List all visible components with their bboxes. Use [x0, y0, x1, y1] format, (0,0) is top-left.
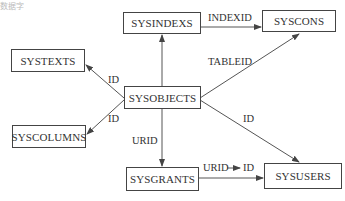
- node-label: SYSUSERS: [275, 170, 330, 182]
- node-systexts: SYSTEXTS: [11, 49, 85, 72]
- node-sysusers: SYSUSERS: [264, 163, 342, 189]
- edge-label-users-id: ID: [243, 113, 254, 124]
- node-sysindexs: SYSINDEXS: [123, 12, 201, 34]
- node-label: SYSCONS: [274, 15, 324, 27]
- edge-label-texts-id: ID: [108, 74, 119, 85]
- edge-label-indexid: INDEXID: [208, 12, 252, 23]
- node-syscons: SYSCONS: [262, 10, 336, 32]
- edge-users-id: [200, 100, 299, 162]
- edge-label-urid: URID: [132, 135, 158, 146]
- node-label: SYSINDEXS: [131, 17, 192, 29]
- edge-label-grants-id: ID: [243, 162, 254, 173]
- edge-label-tableid: TABLEID: [208, 56, 252, 67]
- node-label: SYSGRANTS: [130, 173, 195, 185]
- node-label: SYSTEXTS: [20, 55, 75, 67]
- node-sysgrants: SYSGRANTS: [126, 167, 199, 191]
- edge-label-grants-urid: URID: [203, 162, 229, 173]
- node-label: SYSOBJECTS: [129, 92, 197, 104]
- node-syscolumns: SYSCOLUMNS: [12, 125, 86, 148]
- node-sysobjects: SYSOBJECTS: [124, 86, 201, 109]
- node-label: SYSCOLUMNS: [12, 131, 87, 143]
- edge-label-columns-id: ID: [108, 113, 119, 124]
